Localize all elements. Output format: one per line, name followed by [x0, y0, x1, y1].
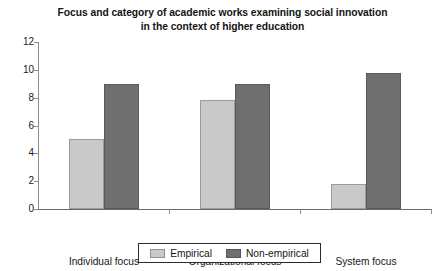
y-tick-label: 0 — [28, 202, 34, 215]
category-separator-1 — [169, 209, 170, 214]
chart-title: Focus and category of academic works exa… — [50, 6, 395, 33]
y-tick-mark — [34, 153, 38, 154]
y-tick-mark — [34, 98, 38, 99]
category-separator-3 — [431, 209, 432, 214]
y-tick-mark — [34, 126, 38, 127]
bar-nonempirical-individual-focus — [104, 84, 139, 209]
y-tick-mark — [34, 209, 38, 210]
y-tick-label: 12 — [23, 35, 34, 48]
chart-title-line-2: in the context of higher education — [50, 20, 395, 34]
y-tick-label: 6 — [28, 119, 34, 132]
legend-entry-empirical: Empirical — [150, 247, 212, 260]
y-tick-label: 2 — [28, 174, 34, 187]
bar-empirical-individual-focus — [69, 139, 104, 209]
y-axis-line — [38, 42, 39, 209]
legend-entry-nonempirical: Non-empirical — [226, 247, 309, 260]
chart-title-line-1: Focus and category of academic works exa… — [50, 6, 395, 20]
y-tick-mark — [34, 181, 38, 182]
bar-nonempirical-system-focus — [366, 73, 401, 209]
y-tick-label: 4 — [28, 146, 34, 159]
legend-label-empirical: Empirical — [170, 247, 212, 260]
bar-empirical-system-focus — [331, 184, 366, 209]
legend-swatch-empirical-icon — [150, 249, 165, 258]
x-axis-label-system-focus: System focus — [306, 255, 426, 269]
legend-label-nonempirical: Non-empirical — [246, 247, 309, 260]
x-axis-line — [38, 209, 432, 210]
chart-legend: Empirical Non-empirical — [138, 243, 321, 263]
bar-nonempirical-organizational-focus — [235, 84, 270, 209]
bar-empirical-organizational-focus — [200, 100, 235, 209]
bar-chart-figure: Focus and category of academic works exa… — [0, 0, 441, 271]
plot-area: 12 10 8 6 4 2 0 — [38, 42, 432, 209]
y-tick-mark — [34, 42, 38, 43]
y-tick-label: 10 — [23, 63, 34, 76]
category-separator-2 — [300, 209, 301, 214]
legend-swatch-nonempirical-icon — [226, 249, 241, 258]
y-tick-label: 8 — [28, 91, 34, 104]
y-tick-mark — [34, 70, 38, 71]
